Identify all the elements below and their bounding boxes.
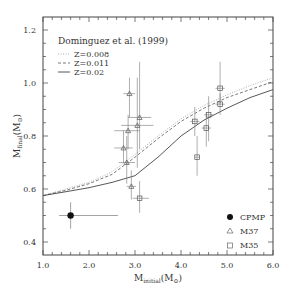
y-axis-label: Mfinal(M⊙) xyxy=(12,114,23,158)
data-legend: CPMP M37 M35 xyxy=(227,213,266,250)
x-tick-label: 1.0 xyxy=(37,261,50,270)
data-point-m35 xyxy=(204,96,213,141)
legend-label-z002: Z=0.02 xyxy=(74,68,104,77)
x-tick-label: 5.0 xyxy=(221,261,234,270)
x-tick-label: 3.0 xyxy=(129,261,142,270)
model-curves xyxy=(43,78,273,196)
data-point-m37 xyxy=(114,131,132,163)
legend-label-m35: M35 xyxy=(240,241,258,250)
y-tick-label: 0.8 xyxy=(23,132,36,141)
model-legend-title: Dominguez et al. (1999) xyxy=(58,36,168,46)
data-point-m35 xyxy=(195,136,200,176)
curve-z0008 xyxy=(43,78,273,196)
x-tick-label: 4.0 xyxy=(175,261,188,270)
mass-relation-chart: 1.02.03.04.05.06.0 0.40.60.81.01.2 Domin… xyxy=(0,0,291,293)
data-point-m37 xyxy=(128,62,151,149)
m37-marker-icon xyxy=(227,228,233,233)
y-tick-label: 1.0 xyxy=(23,79,36,88)
data-point-m37 xyxy=(121,78,153,168)
legend-label-z0008: Z=0.008 xyxy=(74,50,109,59)
y-tick-labels: 0.40.60.81.01.2 xyxy=(23,26,36,247)
data-point-m37 xyxy=(127,170,136,199)
x-tick-label: 6.0 xyxy=(267,261,280,270)
legend-label-z0011: Z=0.011 xyxy=(74,59,109,68)
x-axis-label: Minitial(M⊙) xyxy=(134,273,182,284)
y-tick-label: 0.4 xyxy=(23,238,36,247)
curve-z0011 xyxy=(43,82,273,196)
legend-label-cpmp: CPMP xyxy=(240,213,266,222)
data-point-m35 xyxy=(190,107,199,136)
data-points xyxy=(59,62,225,229)
data-point-m35 xyxy=(133,181,149,213)
x-tick-labels: 1.02.03.04.05.06.0 xyxy=(37,261,280,270)
x-tick-label: 2.0 xyxy=(83,261,96,270)
legend-label-m37: M37 xyxy=(240,227,258,236)
y-tick-label: 1.2 xyxy=(23,26,36,35)
cpmp-marker-icon xyxy=(227,214,233,220)
data-point-cpmp xyxy=(59,202,118,229)
curve-z002 xyxy=(43,90,273,196)
m35-marker-icon xyxy=(228,243,233,248)
y-tick-label: 0.6 xyxy=(23,185,36,194)
data-point-m37 xyxy=(124,78,136,118)
model-legend: Dominguez et al. (1999) Z=0.008 Z=0.011 … xyxy=(58,36,168,77)
